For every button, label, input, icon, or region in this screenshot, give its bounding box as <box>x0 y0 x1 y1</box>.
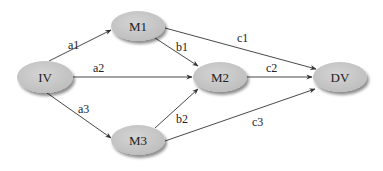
node-label-dv: DV <box>331 70 350 85</box>
nodes-layer: IVM1M2M3DV <box>17 11 367 155</box>
node-label-m3: M3 <box>129 133 147 148</box>
node-label-iv: IV <box>38 70 52 85</box>
node-m1: M1 <box>111 11 165 41</box>
edge-label-c1: c1 <box>237 31 248 45</box>
edge-iv-m1 <box>49 30 111 61</box>
edge-label-c3: c3 <box>252 115 263 129</box>
edge-label-a2: a2 <box>93 61 104 75</box>
edge-label-b2: b2 <box>176 112 188 126</box>
edge-label-b1: b1 <box>176 40 188 54</box>
mediation-diagram: IVM1M2M3DV a1a2a3b1b2c1c2c3 <box>0 0 383 171</box>
node-m2: M2 <box>193 62 247 92</box>
edge-label-a3: a3 <box>78 102 89 116</box>
node-iv: IV <box>17 61 73 93</box>
node-dv: DV <box>313 62 367 92</box>
node-label-m2: M2 <box>211 70 229 85</box>
node-m3: M3 <box>111 125 165 155</box>
node-label-m1: M1 <box>129 19 147 34</box>
edge-label-a1: a1 <box>68 38 79 52</box>
edge-label-c2: c2 <box>266 61 277 75</box>
